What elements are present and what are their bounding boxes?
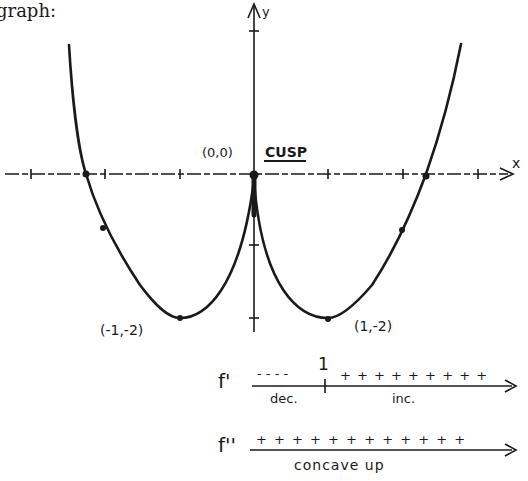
concave-up-note: concave up (294, 457, 385, 473)
cusp-point-label: (0,0) (202, 145, 233, 160)
f-prime-left-signs: - - - - (257, 366, 288, 381)
x-axis (5, 168, 513, 180)
decreasing-note: dec. (270, 391, 298, 406)
y-axis (248, 4, 260, 332)
y-axis-label: y (262, 4, 270, 19)
x-axis-label: x (512, 155, 520, 171)
f-double-prime-label: f'' (218, 433, 236, 457)
cusp-label: CUSP (265, 144, 307, 160)
f-prime-label: f' (218, 369, 231, 393)
function-curve (69, 44, 461, 318)
increasing-note: inc. (392, 391, 415, 406)
first-derivative-chart: f' 1 - - - - + + + + + + + + + dec. inc. (218, 354, 516, 406)
min-right-label: (1,-2) (354, 318, 392, 334)
graph-figure: x y (0,0) CUSP (-1,-2) (1,-2) f' 1 - - -… (0, 0, 528, 481)
min-left-label: (-1,-2) (100, 322, 143, 338)
f-prime-right-signs: + + + + + + + + + (340, 368, 488, 383)
second-derivative-chart: f'' + + + + + + + + + + + + concave up (218, 432, 516, 473)
critical-value: 1 (318, 354, 329, 374)
f-double-prime-signs: + + + + + + + + + + + + (256, 432, 467, 447)
